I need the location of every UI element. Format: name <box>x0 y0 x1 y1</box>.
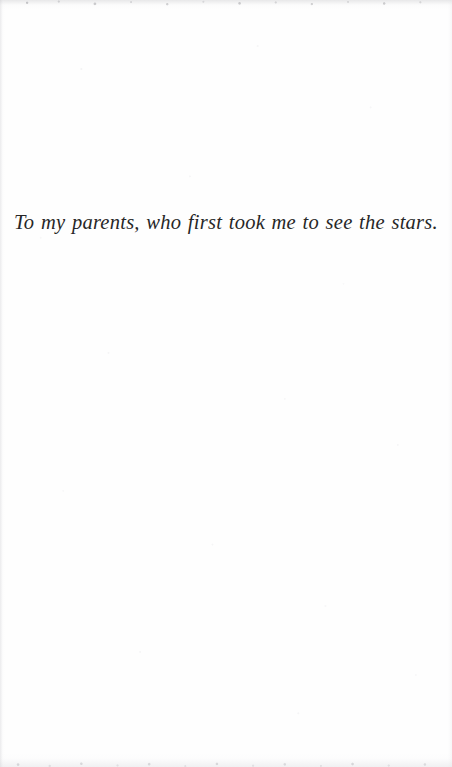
scan-edge-left <box>0 0 5 767</box>
dedication-text: To my parents, who first took me to see … <box>14 207 438 237</box>
scan-edge-bottom-speckle <box>0 756 452 767</box>
scan-edge-right <box>448 0 452 767</box>
scan-edge-top <box>0 0 452 9</box>
paper-grain-texture <box>0 0 452 767</box>
dedication-block: To my parents, who first took me to see … <box>0 207 452 237</box>
scan-edge-bottom <box>0 753 452 767</box>
dedication-page: To my parents, who first took me to see … <box>0 0 452 767</box>
scan-edge-top-speckle <box>0 0 452 7</box>
